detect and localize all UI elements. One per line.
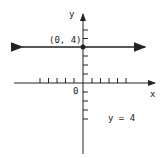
- point-0-4: [81, 45, 86, 50]
- x-axis-label: x: [150, 89, 156, 99]
- point-label: (0, 4): [49, 35, 82, 45]
- origin-label: 0: [73, 86, 78, 96]
- equation-label: y = 4: [108, 113, 135, 123]
- graph-figure: y x 0 (0, 4) y = 4: [0, 0, 165, 158]
- y-axis-ticks: [83, 30, 88, 119]
- y-axis-label: y: [69, 9, 75, 19]
- coordinate-plane: y x 0 (0, 4) y = 4: [0, 0, 165, 158]
